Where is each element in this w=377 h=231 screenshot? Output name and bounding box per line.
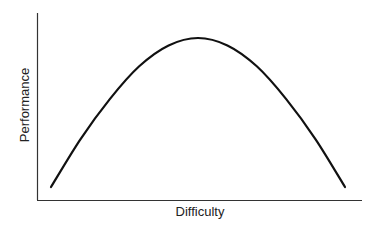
chart-canvas: [0, 0, 377, 231]
performance-curve: [51, 38, 345, 187]
x-axis-label: Difficulty: [0, 204, 377, 219]
y-axis-label: Performance: [17, 68, 32, 142]
